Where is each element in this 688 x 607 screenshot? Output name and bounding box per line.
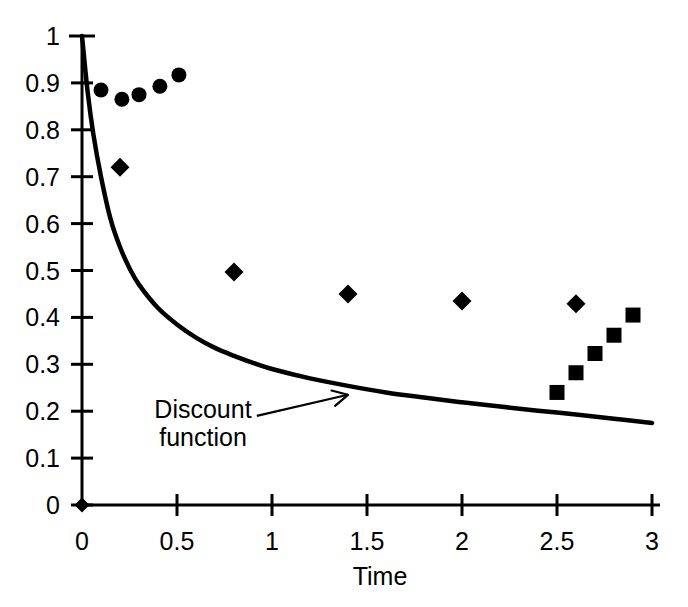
data-point-circle (94, 82, 109, 97)
y-tick-label-0.9: 0.9 (25, 69, 60, 97)
data-point-square (569, 365, 584, 380)
x-tick-label-1: 1 (265, 527, 279, 555)
y-tick-label-0.3: 0.3 (25, 350, 60, 378)
y-tick-label-0.4: 0.4 (25, 303, 60, 331)
y-tick-label-0.1: 0.1 (25, 444, 60, 472)
annotation-label-line1: Discount (154, 395, 251, 423)
y-tick-label-0.5: 0.5 (25, 257, 60, 285)
chart-figure: 00.10.20.30.40.50.60.70.80.91 00.511.522… (0, 0, 688, 607)
annotation-label-line2: function (159, 423, 247, 451)
data-point-square (588, 346, 603, 361)
data-point-circle (114, 92, 129, 107)
data-point-square (626, 308, 641, 323)
x-tick-label-1.5: 1.5 (350, 527, 385, 555)
data-point-circle (171, 67, 186, 82)
x-axis-title: Time (353, 562, 408, 590)
y-axis-tick-labels: 00.10.20.30.40.50.60.70.80.91 (25, 22, 60, 519)
y-tick-label-0: 0 (46, 491, 60, 519)
y-tick-label-1: 1 (46, 22, 60, 50)
y-tick-label-0.8: 0.8 (25, 116, 60, 144)
x-tick-label-0: 0 (75, 527, 89, 555)
discount-function-plot: 00.10.20.30.40.50.60.70.80.91 00.511.522… (0, 0, 688, 607)
x-tick-label-3: 3 (645, 527, 659, 555)
y-tick-label-0.6: 0.6 (25, 210, 60, 238)
x-tick-label-2: 2 (455, 527, 469, 555)
y-tick-label-0.7: 0.7 (25, 163, 60, 191)
x-tick-label-2.5: 2.5 (540, 527, 575, 555)
x-tick-label-0.5: 0.5 (160, 527, 195, 555)
data-point-circle (152, 79, 167, 94)
y-tick-label-0.2: 0.2 (25, 397, 60, 425)
data-point-square (550, 385, 565, 400)
data-point-square (607, 328, 622, 343)
data-point-circle (132, 87, 147, 102)
x-axis-tick-labels: 00.511.522.53 (75, 527, 659, 555)
